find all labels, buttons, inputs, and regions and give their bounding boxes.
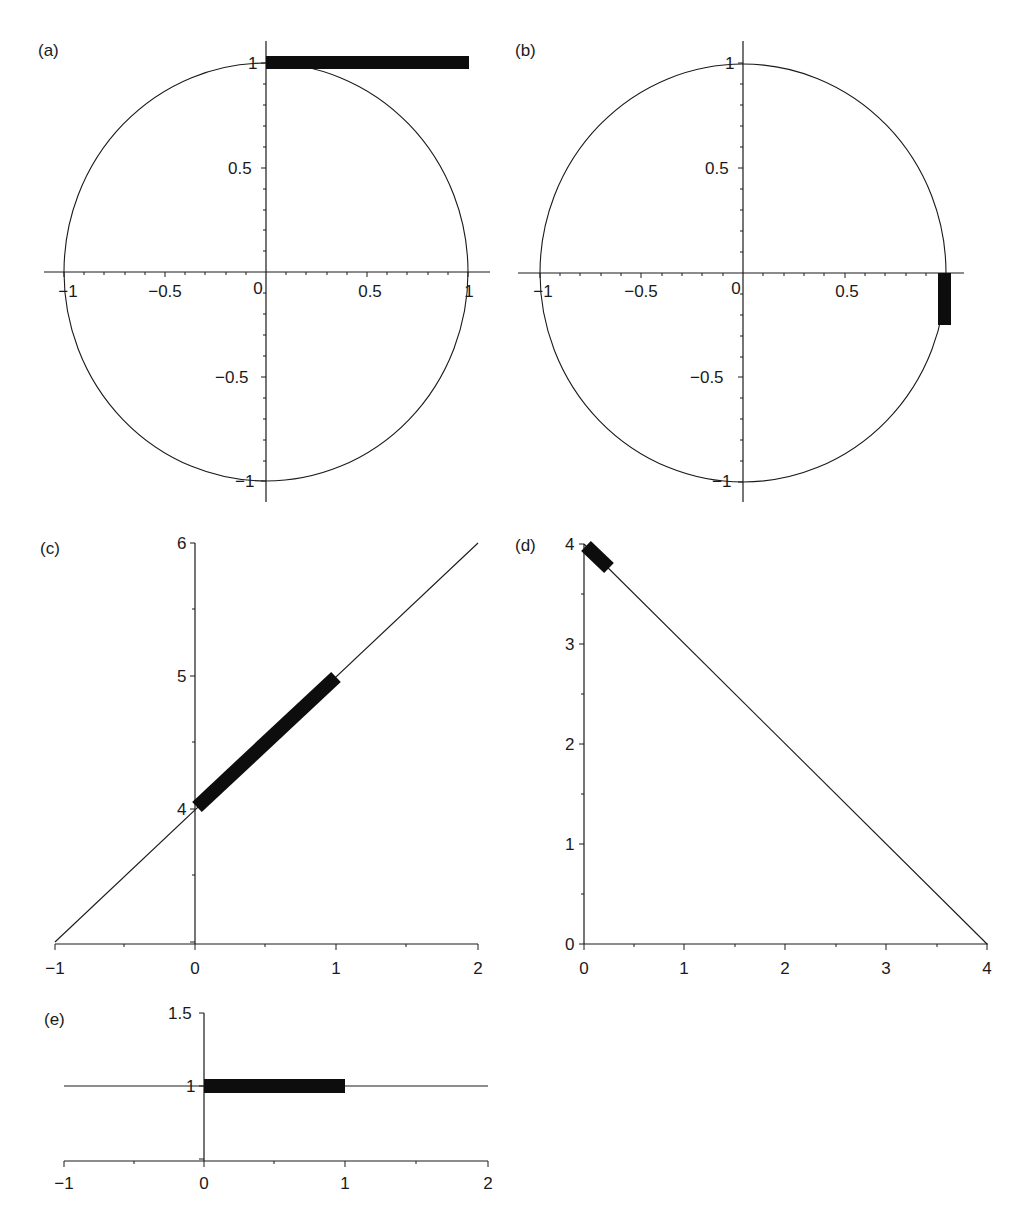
panel-d: (d) 0 1 2 3 4 4 3 2 1 0 [500,520,1028,970]
y-tick-label: 2 [565,736,574,753]
x-ticks [584,944,987,950]
x-tick-label: 1 [679,960,688,977]
y-ticks [579,544,584,944]
plot-b [500,0,1028,510]
y-tick-label: −0.5 [215,369,249,386]
x-ticks [55,944,478,950]
y-tick-label: 1 [248,55,257,72]
y-tick-label: 3 [565,636,574,653]
x-tick-label: 4 [982,960,991,977]
x-tick-label: 0.5 [358,283,382,300]
panel-c: (c) −1 0 1 2 6 5 4 [0,520,500,970]
y-tick-label: 4 [177,801,186,818]
plot-e [0,1000,520,1222]
x-tick-label: −1 [58,283,77,300]
x-tick-label: −0.5 [148,283,182,300]
panel-a: (a) −1 −0.5 0 0.5 1 1 0.5 −0.5 −1 [0,0,500,510]
x-tick-label: 1 [331,960,340,977]
y-tick-label: 6 [177,535,186,552]
y-tick-label: 1 [565,836,574,853]
y-tick-label: 0.5 [705,160,729,177]
y-tick-label: −1 [712,473,731,490]
x-tick-label: 2 [483,1175,492,1192]
y-tick-label: 5 [177,668,186,685]
panel-b: (b) −1 −0.5 0 0.5 1 0.5 −0.5 −1 [500,0,1028,510]
y-tick-label: 0.5 [228,160,252,177]
x-tick-label: −1 [45,960,64,977]
highlighted-segment [266,56,469,69]
line-x-plus-y-equals-4 [584,544,987,944]
x-tick-label: 0 [199,1175,208,1192]
highlighted-segment [197,677,336,807]
y-tick-label: 1.5 [168,1005,192,1022]
panel-e: (e) −1 0 1 2 1.5 1 [0,1000,520,1222]
y-tick-label: 1 [725,55,734,72]
x-tick-label: 0 [579,960,588,977]
x-tick-label: 1 [340,1175,349,1192]
x-ticks [64,1161,488,1167]
x-tick-label: 1 [464,283,473,300]
y-ticks [190,543,195,942]
x-tick-label: 0.5 [835,283,859,300]
plot-a [0,0,500,510]
x-tick-label: 0 [253,280,262,297]
y-tick-label: 1 [186,1078,195,1095]
y-tick-label: −1 [235,473,254,490]
y-tick-label: −0.5 [690,369,724,386]
y-tick-label: 4 [565,536,574,553]
x-tick-label: 0 [190,960,199,977]
highlighted-segment [204,1079,345,1093]
x-tick-label: −1 [533,283,552,300]
x-tick-label: 2 [473,960,482,977]
plot-d [500,520,1028,970]
x-tick-label: −0.5 [624,283,658,300]
highlighted-segment [586,546,609,568]
x-tick-label: 0 [731,280,740,297]
x-tick-label: −1 [54,1175,73,1192]
y-tick-label: 0 [565,936,574,953]
plot-c [0,520,500,970]
x-tick-label: 2 [780,960,789,977]
x-tick-label: 3 [881,960,890,977]
highlighted-segment [938,273,951,325]
